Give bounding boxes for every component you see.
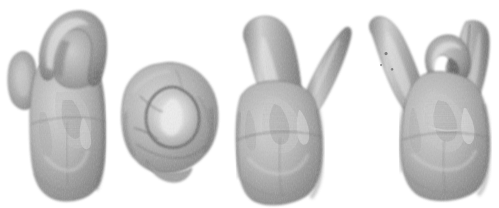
panel-1-group	[8, 11, 107, 201]
panel-2-group	[122, 63, 218, 183]
crown-edge-shadow-2	[125, 112, 134, 156]
hook-root-1-highlight	[46, 18, 89, 70]
cusp-ridges-4	[404, 168, 486, 192]
developmental-groove-4	[443, 140, 446, 194]
root-shaft-1	[50, 25, 100, 88]
marginal-ridge-highlight-2	[133, 71, 170, 92]
panel-3-mesial-view: Crown at the bottom with two widely dive…	[0, 0, 499, 208]
panel-3-group	[236, 16, 351, 205]
root-left-3-highlight	[260, 36, 282, 109]
root-right-3	[300, 27, 351, 120]
cusp-ridges-3	[240, 172, 318, 195]
hook-root-4	[426, 35, 471, 83]
edge-shading-3	[311, 110, 322, 198]
hook-root-4-highlight	[431, 41, 462, 72]
accessory-root-1-highlight	[16, 60, 29, 97]
cusp-highlight-1	[45, 150, 88, 170]
root-left-4-highlight	[386, 32, 413, 103]
cervical-line-1	[31, 117, 105, 124]
hook-root-1-inner-shadow	[56, 40, 70, 77]
root-left-3	[244, 16, 303, 126]
root-left-4-specks	[380, 52, 393, 71]
left-edge-shading-4	[400, 106, 404, 172]
internal-structures-3	[245, 96, 309, 153]
crown-outline-2	[122, 63, 218, 173]
hook-root-4-core-shadow	[446, 58, 459, 78]
crown-lobe-2	[146, 160, 192, 182]
crown-body-3	[236, 81, 322, 205]
pulp-horn-highlight-2	[160, 99, 182, 136]
accessory-root-1	[8, 52, 37, 110]
hook-root-1	[40, 11, 107, 86]
crown-body-1	[30, 51, 105, 202]
figure-canvas: Molar crown below with divergent roots e…	[0, 0, 499, 208]
pulp-chamber-rim-2	[146, 87, 199, 148]
panel-2-occlusal-view: Top-down view of the crown showing the o…	[0, 0, 499, 208]
edge-shading-1	[96, 70, 104, 190]
pulp-chamber-2	[150, 91, 196, 143]
cervical-line-3	[237, 132, 322, 140]
internal-structures-4	[409, 92, 475, 153]
root-right-4	[450, 21, 489, 115]
root-right-3-highlight	[311, 40, 340, 100]
developmental-groove-3	[279, 138, 282, 196]
edge-shading-4	[478, 104, 489, 195]
cusp-highlight-3	[248, 154, 308, 174]
cervical-line-4	[402, 133, 489, 140]
cusp-highlight-4	[412, 150, 476, 170]
crown-body-4	[401, 72, 489, 201]
cusp-ridges-1	[34, 172, 101, 190]
left-edge-shading-3	[237, 112, 240, 178]
marginal-ridge-shadow-2	[204, 108, 212, 152]
internal-structures-1	[39, 92, 91, 157]
developmental-groove-1	[66, 122, 68, 186]
root-right-4-highlight	[468, 30, 481, 98]
root-right-4-cleft	[466, 24, 470, 104]
panel-4-distal-view: Crown at the bottom with a splayed left …	[0, 0, 499, 208]
panel-1-buccal-view: Molar crown below with divergent roots e…	[0, 0, 499, 208]
occlusal-fissures-2	[134, 70, 209, 158]
panel-4-group	[370, 17, 490, 201]
root-left-4	[370, 17, 430, 123]
